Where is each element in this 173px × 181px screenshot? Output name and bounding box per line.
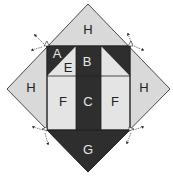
label-f-right: F (111, 94, 119, 109)
label-g: G (83, 142, 93, 157)
bottom-right-seam-arrows (127, 127, 143, 143)
bottom-left-seam-arrows (33, 127, 48, 144)
label-h-left: H (26, 80, 35, 95)
label-f-left: F (59, 94, 67, 109)
label-h-top: H (83, 22, 92, 37)
quilt-block-diagram: H H H A E B F C F G (0, 0, 173, 181)
label-a: A (53, 46, 62, 61)
label-b: B (83, 54, 92, 69)
label-h-right: H (139, 80, 148, 95)
label-e: E (64, 60, 73, 75)
label-c: C (83, 94, 92, 109)
